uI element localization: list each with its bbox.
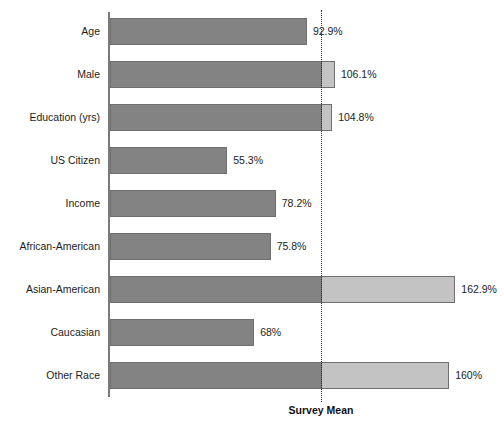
bar-category-label: Other Race <box>0 362 100 389</box>
bar-segment-below-mean <box>110 104 322 131</box>
survey-mean-reference-line <box>321 10 322 402</box>
bar <box>110 61 335 88</box>
bar <box>110 18 307 45</box>
bar <box>110 362 449 389</box>
bar-segment-above-mean <box>322 362 449 389</box>
bar-row: Other Race160% <box>0 362 504 389</box>
bar-series: Age92.9%Male106.1%Education (yrs)104.8%U… <box>0 0 504 437</box>
bar-row: Age92.9% <box>0 18 504 45</box>
bar-value-label: 162.9% <box>461 276 497 303</box>
bar-row: Asian-American162.9% <box>0 276 504 303</box>
bar-value-label: 106.1% <box>341 61 377 88</box>
bar-row: Income78.2% <box>0 190 504 217</box>
bar <box>110 233 271 260</box>
bar-segment-below-mean <box>110 18 307 45</box>
bar-category-label: Income <box>0 190 100 217</box>
bar-segment-above-mean <box>322 276 455 303</box>
bar-segment-below-mean <box>110 233 271 260</box>
bar-value-label: 92.9% <box>313 18 343 45</box>
bar <box>110 104 332 131</box>
bar-row: African-American75.8% <box>0 233 504 260</box>
bar <box>110 190 276 217</box>
survey-mean-label: Survey Mean <box>221 404 421 416</box>
bar-category-label: Caucasian <box>0 319 100 346</box>
bar-value-label: 68% <box>260 319 281 346</box>
bar-category-label: Education (yrs) <box>0 104 100 131</box>
bar <box>110 319 254 346</box>
bar-segment-below-mean <box>110 362 322 389</box>
bar-value-label: 78.2% <box>282 190 312 217</box>
bar-segment-below-mean <box>110 190 276 217</box>
bar-value-label: 75.8% <box>277 233 307 260</box>
survey-mean-bar-chart: Age92.9%Male106.1%Education (yrs)104.8%U… <box>0 0 504 437</box>
bar-segment-below-mean <box>110 147 227 174</box>
bar-segment-above-mean <box>322 61 335 88</box>
bar-value-label: 55.3% <box>233 147 263 174</box>
bar-segment-below-mean <box>110 319 254 346</box>
bar-segment-below-mean <box>110 276 322 303</box>
bar-row: Caucasian68% <box>0 319 504 346</box>
bar <box>110 147 227 174</box>
bar-row: US Citizen55.3% <box>0 147 504 174</box>
bar-value-label: 160% <box>455 362 482 389</box>
bar-row: Male106.1% <box>0 61 504 88</box>
bar-category-label: African-American <box>0 233 100 260</box>
bar-value-label: 104.8% <box>338 104 374 131</box>
bar-category-label: Age <box>0 18 100 45</box>
bar <box>110 276 455 303</box>
bar-row: Education (yrs)104.8% <box>0 104 504 131</box>
bar-category-label: Male <box>0 61 100 88</box>
bar-category-label: Asian-American <box>0 276 100 303</box>
bar-segment-below-mean <box>110 61 322 88</box>
bar-category-label: US Citizen <box>0 147 100 174</box>
bar-segment-above-mean <box>322 104 332 131</box>
